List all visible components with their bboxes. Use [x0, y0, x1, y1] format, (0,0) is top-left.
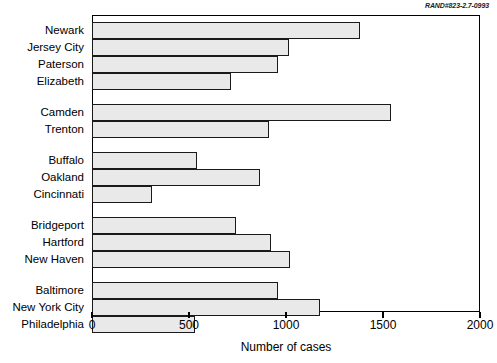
bar: [92, 73, 231, 90]
bar: [92, 282, 278, 299]
y-axis-label: Bridgeport: [31, 217, 84, 234]
y-axis-label: Oakland: [41, 169, 84, 186]
x-tick-label: 500: [179, 318, 199, 332]
y-axis-label: Paterson: [38, 56, 84, 73]
y-axis-label: Elizabeth: [37, 73, 84, 90]
y-axis-label: Buffalo: [48, 152, 84, 169]
bar: [92, 104, 391, 121]
rand-document-id: RAND#823-2.7-0993: [425, 2, 489, 9]
bar: [92, 186, 152, 203]
y-axis-label: New York City: [12, 299, 84, 316]
bar: [92, 22, 360, 39]
bar: [92, 152, 197, 169]
x-axis-tick-labels: 0500100015002000: [0, 318, 497, 334]
y-axis-label: Cincinnati: [34, 186, 85, 203]
bar: [92, 169, 260, 186]
bar: [92, 217, 236, 234]
bar: [92, 121, 269, 138]
bar: [92, 39, 289, 56]
y-axis-label: Hartford: [42, 234, 84, 251]
y-axis-label: New Haven: [25, 251, 84, 268]
bar-chart-figure: RAND#823-2.7-0993 NewarkJersey CityPater…: [0, 0, 497, 363]
y-axis-label: Baltimore: [35, 282, 84, 299]
bars-layer: [92, 15, 480, 312]
bar: [92, 251, 290, 268]
bar: [92, 234, 271, 251]
x-tick-label: 2000: [467, 318, 494, 332]
x-tick-label: 1000: [273, 318, 300, 332]
y-axis-category-labels: NewarkJersey CityPatersonElizabethCamden…: [0, 15, 88, 312]
y-axis-label: Newark: [45, 22, 84, 39]
bar: [92, 56, 278, 73]
y-axis-label: Trenton: [45, 121, 84, 138]
x-axis-title: Number of cases: [92, 340, 480, 354]
x-tick-label: 0: [89, 318, 96, 332]
x-tick-label: 1500: [370, 318, 397, 332]
y-axis-label: Camden: [41, 104, 84, 121]
y-axis-label: Jersey City: [27, 39, 84, 56]
